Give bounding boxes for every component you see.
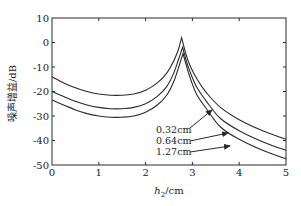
annotation-0-64cm: 0.64cm [156, 135, 191, 146]
noise-gain-chart: 012345 100-10-20-30-40-50 0.32cm0.64cm1.… [0, 0, 301, 206]
x-axis-label: h2/cm [154, 185, 184, 199]
y-tick-label: 10 [36, 13, 49, 24]
y-tick-label: -30 [33, 111, 49, 122]
arrow-icon [190, 110, 212, 128]
x-tick-label: 1 [96, 167, 102, 178]
x-tick-label: 2 [142, 167, 148, 178]
x-tick-label: 3 [189, 167, 195, 178]
x-axis-label-unit: /cm [165, 185, 184, 196]
y-tick-label: -50 [33, 160, 49, 171]
y-axis-label: 噪声增益/dB [6, 65, 18, 122]
y-tick-label: -20 [33, 86, 49, 97]
y-tick-label: -10 [33, 62, 49, 73]
y-tick-label: -40 [33, 135, 49, 146]
arrow-icon [190, 133, 228, 141]
x-tick-label: 4 [236, 167, 242, 178]
annotation-1-27cm: 1.27cm [156, 146, 191, 157]
arrow-icon [190, 146, 230, 152]
annotation-0-32cm: 0.32cm [156, 124, 191, 135]
y-tick-label: 0 [43, 37, 49, 48]
x-tick-label: 5 [283, 167, 289, 178]
x-tick-label: 0 [49, 167, 55, 178]
